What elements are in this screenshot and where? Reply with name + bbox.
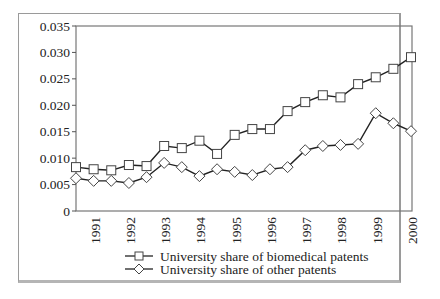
square-marker-icon (89, 165, 98, 174)
square-marker-icon (265, 125, 274, 134)
x-tick-label: 1992 (123, 217, 138, 244)
square-marker-icon (160, 141, 169, 150)
y-tick-label: 0 (63, 204, 70, 219)
square-marker-icon (389, 64, 398, 73)
square-marker-icon (72, 163, 81, 172)
square-marker-icon (336, 93, 345, 102)
square-marker-icon (177, 144, 186, 153)
square-marker-icon (301, 98, 310, 107)
diamond-marker-icon (247, 170, 258, 181)
x-tick-label: 1999 (370, 217, 385, 244)
diamond-marker-icon (388, 118, 399, 129)
square-marker-icon (213, 149, 222, 158)
diamond-marker-icon (176, 162, 187, 173)
y-tick-label: 0.010 (40, 151, 71, 166)
x-tick-label: 1998 (334, 217, 349, 244)
square-marker-icon (318, 91, 327, 100)
diamond-marker-icon (212, 164, 223, 175)
square-marker-icon (230, 130, 239, 139)
y-tick-label: 0.015 (40, 124, 71, 139)
diamond-marker-icon (406, 126, 417, 137)
line-chart: 00.0050.0100.0150.0200.0250.0300.035 199… (0, 0, 440, 299)
x-tick-label: 1995 (229, 217, 244, 244)
series-line (76, 57, 411, 170)
diamond-marker-icon (229, 166, 240, 177)
diamond-marker-icon (264, 164, 275, 175)
y-axis-ticks: 00.0050.0100.0150.0200.0250.0300.035 (40, 19, 76, 219)
diamond-marker-icon (353, 138, 364, 149)
legend-label: University share of other patents (160, 262, 336, 277)
square-marker-icon (248, 125, 257, 134)
square-marker-icon (371, 73, 380, 82)
diamond-marker-icon (317, 140, 328, 151)
x-tick-label: 1996 (264, 217, 279, 244)
diamond-marker-icon (106, 175, 117, 186)
x-tick-label: 2000 (405, 217, 420, 244)
square-marker-icon (124, 161, 133, 170)
legend: University share of biomedical patents U… (125, 249, 368, 277)
y-tick-label: 0.030 (40, 45, 71, 60)
diamond-marker-icon (88, 175, 99, 186)
diamond-marker-icon (370, 108, 381, 119)
square-marker-icon (283, 107, 292, 116)
diamond-marker-icon (335, 139, 346, 150)
diamond-marker-icon (71, 173, 82, 184)
legend-item-other: University share of other patents (125, 262, 336, 277)
x-tick-label: 1991 (88, 217, 103, 244)
square-marker-icon (107, 166, 116, 175)
diamond-marker-icon (194, 171, 205, 182)
y-tick-label: 0.035 (40, 19, 71, 34)
series-group (71, 53, 417, 189)
y-tick-label: 0.005 (40, 177, 71, 192)
diamond-marker-icon (123, 177, 134, 188)
square-marker-icon (142, 162, 151, 171)
y-tick-label: 0.020 (40, 98, 71, 113)
x-tick-label: 1997 (299, 217, 314, 244)
square-marker-icon (354, 80, 363, 89)
square-marker-icon (407, 53, 416, 62)
square-marker-icon (135, 252, 143, 260)
diamond-marker-icon (134, 264, 144, 274)
x-tick-label: 1993 (158, 217, 173, 244)
square-marker-icon (195, 136, 204, 145)
series-line (76, 113, 411, 183)
x-tick-label: 1994 (193, 217, 208, 244)
x-axis-ticks: 1991199219931994199519961997199819992000 (88, 217, 420, 244)
y-tick-label: 0.025 (40, 71, 71, 86)
